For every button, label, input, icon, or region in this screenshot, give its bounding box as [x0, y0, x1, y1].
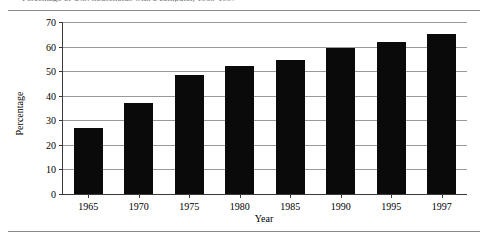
bar: [427, 34, 456, 194]
x-tick-mark: [88, 194, 89, 198]
x-tick-mark: [391, 194, 392, 198]
x-tick-label: 1995: [381, 201, 401, 212]
x-tick-label: 1980: [230, 201, 250, 212]
bar: [175, 75, 204, 194]
x-tick-mark: [341, 194, 342, 198]
bar-chart-figure: Percentage 010203040506070 1965197019751…: [0, 0, 488, 238]
x-tick-mark: [139, 194, 140, 198]
y-tick-label: 50: [46, 66, 56, 77]
y-tick-label: 60: [46, 41, 56, 52]
x-tick-mark: [290, 194, 291, 198]
x-tick-mark: [189, 194, 190, 198]
x-tick-label: 1990: [331, 201, 351, 212]
x-tick-label: 1985: [280, 201, 300, 212]
bar: [326, 48, 355, 194]
x-tick-label: 1970: [129, 201, 149, 212]
x-axis-label: Year: [62, 213, 466, 224]
y-tick-label: 0: [51, 189, 56, 200]
y-tick-label: 10: [46, 164, 56, 175]
x-tick-mark: [442, 194, 443, 198]
x-tick-label: 1965: [78, 201, 98, 212]
y-tick-label: 20: [46, 139, 56, 150]
bottom-rule: [8, 231, 480, 232]
y-axis-label: Percentage: [14, 54, 25, 174]
bar: [74, 128, 103, 194]
y-tick-label: 70: [46, 17, 56, 28]
y-tick-label: 30: [46, 115, 56, 126]
x-tick-label: 1975: [179, 201, 199, 212]
bar: [377, 42, 406, 194]
bar: [276, 60, 305, 194]
y-tick-mark: [59, 194, 63, 195]
x-tick-label: 1997: [432, 201, 452, 212]
plot-area: 010203040506070 196519701975198019851990…: [62, 22, 467, 195]
bar-series: [63, 22, 467, 194]
y-tick-label: 40: [46, 90, 56, 101]
bar: [225, 66, 254, 194]
bar: [124, 103, 153, 194]
x-tick-mark: [240, 194, 241, 198]
